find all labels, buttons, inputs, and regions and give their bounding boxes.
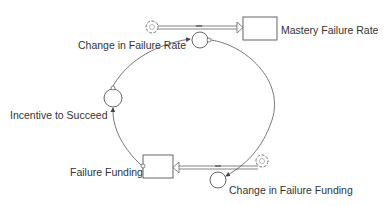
link-funding-to-incentive xyxy=(113,108,141,165)
flow-pipe-change-in-failure-rate xyxy=(158,22,243,33)
aux-incentive-to-succeed[interactable] xyxy=(104,86,122,107)
label-incentive-to-succeed: Incentive to Succeed xyxy=(10,109,107,121)
valve-change-in-failure-funding[interactable] xyxy=(210,172,226,188)
cloud-source-icon-bottom xyxy=(256,155,268,167)
flow-pipe-change-in-failure-funding xyxy=(173,162,258,173)
label-change-in-failure-rate: Change in Failure Rate xyxy=(78,39,186,51)
label-mastery-failure-rate: Mastery Failure Rate xyxy=(281,24,378,36)
cloud-source-icon-top xyxy=(146,21,158,33)
stock-mastery-failure-rate[interactable] xyxy=(243,17,277,40)
label-change-in-failure-funding: Change in Failure Funding xyxy=(229,184,353,196)
valve-change-in-failure-rate[interactable] xyxy=(192,32,211,48)
stock-failure-funding[interactable] xyxy=(143,155,173,178)
link-mastery-to-change-funding xyxy=(211,40,275,176)
label-failure-funding: Failure Funding xyxy=(70,166,143,178)
